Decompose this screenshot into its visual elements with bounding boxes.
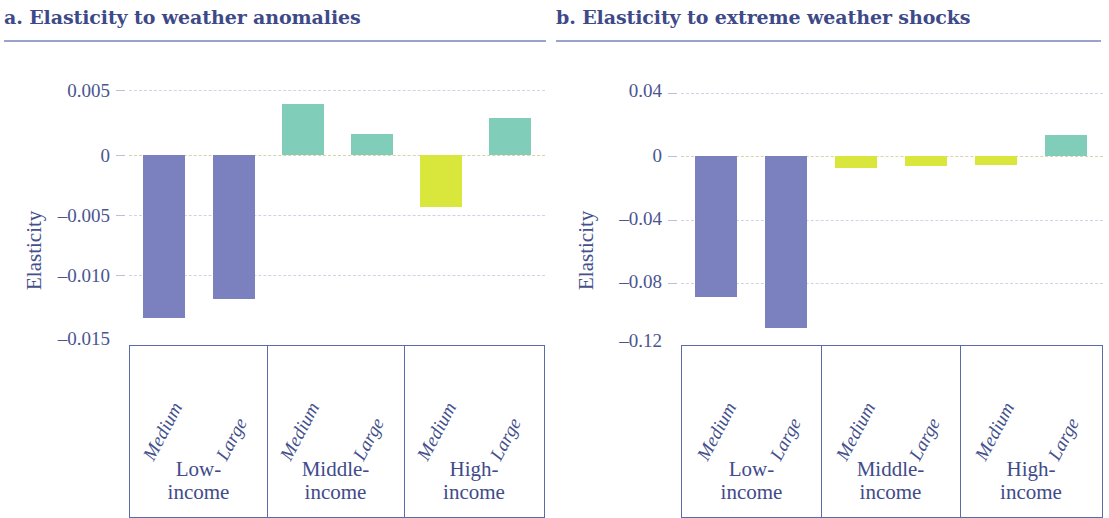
group-label-middle-income: Middle- income xyxy=(267,458,404,503)
panel-b-ytick-1: 0 xyxy=(576,145,662,167)
bar-low-income-large xyxy=(765,156,807,328)
subgroup-label-medium: Medium xyxy=(832,399,881,464)
group-label-line1: Middle- xyxy=(821,458,960,481)
bar-low-income-medium xyxy=(695,156,737,297)
subgroup-label-medium: Medium xyxy=(693,399,742,464)
panel-b-ytick-3: –0.08 xyxy=(576,271,662,293)
group-label-low-income: Low- income xyxy=(130,458,267,503)
gridline xyxy=(129,215,545,216)
panel-a-ytick-1: 0 xyxy=(24,145,110,167)
group-label-middle-income: Middle- income xyxy=(821,458,960,503)
panel-b-ytick-4: –0.12 xyxy=(576,330,662,352)
bar-middle-income-large xyxy=(905,156,947,166)
panel-a-category-box: Medium Large Medium Large Medium Large L… xyxy=(129,345,545,518)
group-label-line1: Low- xyxy=(682,458,821,481)
panel-a-tickmark xyxy=(116,155,125,156)
gridline xyxy=(681,93,1103,94)
subgroup-label-medium: Medium xyxy=(971,399,1020,464)
panel-a: a. Elasticity to weather anomalies Elast… xyxy=(0,0,554,518)
group-label-line2: income xyxy=(267,481,404,504)
panel-b-tickmark xyxy=(668,283,677,284)
group-label-high-income: High- income xyxy=(960,458,1102,503)
gridline xyxy=(681,283,1103,284)
gridline xyxy=(129,90,545,91)
figure-root: a. Elasticity to weather anomalies Elast… xyxy=(0,0,1109,518)
panel-a-title: a. Elasticity to weather anomalies xyxy=(4,6,361,28)
bar-high-income-medium xyxy=(420,155,462,207)
group-label-line2: income xyxy=(821,481,960,504)
group-label-line2: income xyxy=(682,481,821,504)
bar-middle-income-large xyxy=(351,134,393,155)
bar-high-income-large xyxy=(1045,135,1087,156)
bar-low-income-large xyxy=(213,155,255,299)
group-label-line1: Middle- xyxy=(267,458,404,481)
zero-gridline xyxy=(681,156,1103,157)
panel-a-ytick-3: –0.010 xyxy=(24,265,110,287)
subgroup-label-medium: Medium xyxy=(413,399,462,464)
panel-b-tickmark xyxy=(668,220,677,221)
panel-a-tickmark xyxy=(116,90,125,91)
group-label-line1: Low- xyxy=(130,458,267,481)
bar-middle-income-medium xyxy=(835,156,877,168)
panel-b-plot-area xyxy=(681,60,1103,345)
bar-high-income-large xyxy=(489,118,531,155)
subgroup-label-medium: Medium xyxy=(139,399,188,464)
panel-b-title-rule xyxy=(556,40,1101,42)
panel-b-ytick-0: 0.04 xyxy=(576,80,662,102)
group-label-line2: income xyxy=(960,481,1102,504)
panel-a-plot-area xyxy=(129,60,545,345)
group-label-line2: income xyxy=(130,481,267,504)
panel-b: b. Elasticity to extreme weather shocks … xyxy=(554,0,1109,518)
group-label-low-income: Low- income xyxy=(682,458,821,503)
bar-high-income-medium xyxy=(975,156,1017,165)
panel-b-category-box: Medium Large Medium Large Medium Large L… xyxy=(681,345,1103,518)
panel-b-tickmark xyxy=(668,156,677,157)
group-label-high-income: High- income xyxy=(404,458,544,503)
panel-a-ytick-2: –0.005 xyxy=(24,205,110,227)
gridline xyxy=(681,220,1103,221)
panel-a-ytick-4: –0.015 xyxy=(24,328,110,350)
bar-middle-income-medium xyxy=(282,104,324,155)
gridline xyxy=(129,275,545,276)
panel-a-ytick-0: 0.005 xyxy=(24,80,110,102)
panel-b-tickmark xyxy=(668,93,677,94)
zero-gridline xyxy=(129,155,545,156)
subgroup-label-medium: Medium xyxy=(276,399,325,464)
panel-a-tickmark xyxy=(116,215,125,216)
bar-low-income-medium xyxy=(143,155,185,318)
group-label-line1: High- xyxy=(960,458,1102,481)
panel-a-tickmark xyxy=(116,275,125,276)
panel-b-title: b. Elasticity to extreme weather shocks xyxy=(556,6,970,28)
group-label-line2: income xyxy=(404,481,544,504)
panel-b-ytick-2: –0.04 xyxy=(576,208,662,230)
group-label-line1: High- xyxy=(404,458,544,481)
panel-a-title-rule xyxy=(4,40,546,42)
